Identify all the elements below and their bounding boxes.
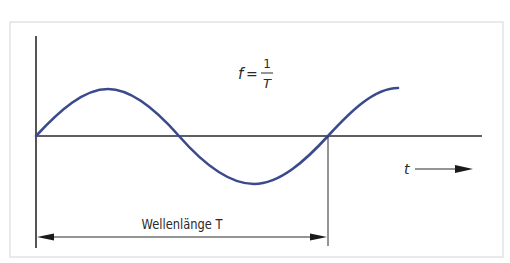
sine-wave-diagram: Wellenlänge T t f = 1 T — [0, 0, 510, 263]
formula-numerator: 1 — [263, 57, 271, 71]
wavelength-label: Wellenlänge T — [142, 216, 223, 232]
time-axis-label: t — [404, 161, 410, 177]
diagram-frame — [10, 22, 503, 257]
formula-denominator: T — [263, 76, 272, 91]
formula-equals: = — [246, 66, 258, 82]
